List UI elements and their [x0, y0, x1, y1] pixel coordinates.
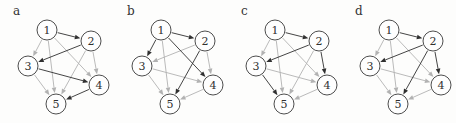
edge-1-5 — [390, 41, 396, 88]
node-label-3: 3 — [253, 60, 260, 73]
node-label-1: 1 — [272, 24, 279, 37]
node-label-2: 2 — [316, 35, 323, 48]
edge-2-4 — [321, 52, 324, 69]
edge-1-5 — [162, 41, 168, 88]
edge-2-4 — [435, 52, 438, 69]
node-label-4: 4 — [210, 79, 217, 92]
edge-3-4 — [153, 69, 197, 81]
node-label-4: 4 — [324, 79, 331, 92]
arrowhead-3-5 — [158, 89, 163, 95]
arrowhead-1-5 — [280, 87, 285, 93]
edge-3-4 — [267, 69, 311, 81]
panel-b: b 12345 — [114, 0, 228, 123]
arrowhead-1-5 — [52, 87, 57, 93]
node-label-5: 5 — [395, 98, 402, 111]
edge-2-4 — [93, 52, 96, 69]
arrowhead-2-4 — [322, 68, 327, 74]
edge-3-5 — [149, 75, 161, 91]
node-label-3: 3 — [139, 60, 146, 73]
edge-4-5 — [71, 89, 89, 97]
edge-1-2 — [58, 33, 75, 37]
node-label-3: 3 — [367, 60, 374, 73]
arrowhead-3-5 — [44, 89, 49, 95]
edge-4-5 — [185, 89, 203, 97]
node-label-1: 1 — [44, 24, 51, 37]
edge-1-2 — [172, 33, 189, 37]
edge-2-5 — [292, 51, 314, 90]
arrowhead-1-2 — [416, 35, 422, 39]
node-label-5: 5 — [167, 98, 174, 111]
node-label-2: 2 — [430, 35, 437, 48]
arrowhead-3-4 — [424, 79, 430, 83]
arrowhead-2-3 — [38, 58, 44, 62]
graph-b: 12345 — [114, 0, 228, 123]
node-label-3: 3 — [25, 60, 32, 73]
edge-2-5 — [64, 51, 86, 90]
edge-4-5 — [299, 89, 317, 97]
graph-d: 12345 — [342, 0, 456, 123]
arrowhead-2-3 — [152, 58, 158, 62]
graph-c: 12345 — [228, 0, 342, 123]
edge-1-3 — [264, 40, 270, 52]
node-label-4: 4 — [438, 79, 445, 92]
arrowhead-3-4 — [196, 79, 202, 83]
arrowhead-1-2 — [302, 35, 308, 39]
node-label-2: 2 — [202, 35, 209, 48]
edge-1-5 — [276, 41, 282, 88]
edge-1-3 — [150, 40, 156, 52]
arrowhead-2-3 — [266, 58, 272, 62]
arrowhead-3-4 — [310, 79, 316, 83]
arrowhead-1-2 — [188, 35, 194, 39]
arrowhead-3-5 — [272, 89, 277, 95]
directed-graph-figure: a 12345 b 12345 c 12345 d 12345 — [0, 0, 456, 123]
arrowhead-1-5 — [394, 87, 399, 93]
edge-2-4 — [207, 52, 210, 69]
node-label-5: 5 — [281, 98, 288, 111]
edge-4-5 — [413, 89, 431, 97]
node-label-5: 5 — [53, 98, 60, 111]
arrowhead-2-4 — [436, 68, 441, 74]
arrowhead-1-2 — [74, 35, 80, 39]
arrowhead-1-5 — [166, 87, 171, 93]
arrowhead-2-3 — [380, 58, 386, 62]
edge-3-5 — [35, 75, 47, 91]
arrowhead-3-5 — [386, 89, 391, 95]
edge-3-5 — [263, 75, 275, 91]
node-label-1: 1 — [158, 24, 165, 37]
edge-2-5 — [406, 51, 428, 90]
arrowhead-2-4 — [208, 68, 213, 74]
edge-3-5 — [377, 75, 389, 91]
node-label-1: 1 — [386, 24, 393, 37]
edge-1-3 — [378, 40, 384, 52]
panel-a: a 12345 — [0, 0, 114, 123]
edge-3-4 — [39, 69, 83, 81]
node-label-4: 4 — [96, 79, 103, 92]
node-label-2: 2 — [88, 35, 95, 48]
edge-2-5 — [178, 51, 200, 90]
edge-1-2 — [286, 33, 303, 37]
edge-1-3 — [36, 40, 42, 52]
edge-3-4 — [381, 69, 425, 81]
graph-a: 12345 — [0, 0, 114, 123]
edge-1-5 — [48, 41, 54, 88]
panel-d: d 12345 — [342, 0, 456, 123]
arrowhead-3-4 — [82, 79, 88, 83]
arrowhead-2-4 — [94, 68, 99, 74]
panel-c: c 12345 — [228, 0, 342, 123]
edge-1-2 — [400, 33, 417, 37]
